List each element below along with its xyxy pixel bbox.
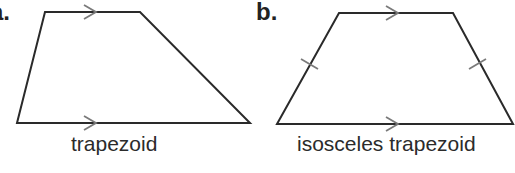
trapezoid-shape xyxy=(17,12,250,123)
figure-b-caption: isosceles trapezoid xyxy=(297,132,476,156)
isosceles-trapezoid-shape xyxy=(277,13,513,124)
figure-a-caption: trapezoid xyxy=(71,132,157,156)
